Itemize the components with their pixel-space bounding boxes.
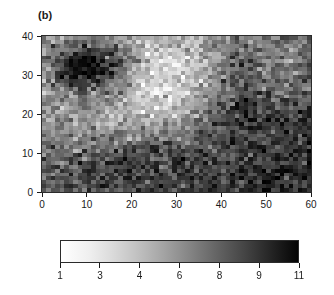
colorbar-tick (139, 263, 140, 268)
colorbar-tick-label: 9 (256, 270, 262, 281)
colorbar-tick-layer: 13468911 (0, 0, 334, 295)
colorbar-tick (299, 263, 300, 268)
colorbar-tick (99, 263, 100, 268)
colorbar-tick (259, 263, 260, 268)
colorbar-tick-label: 4 (137, 270, 143, 281)
colorbar-tick (219, 263, 220, 268)
colorbar-tick-label: 8 (217, 270, 223, 281)
colorbar-tick-label: 11 (294, 270, 304, 281)
colorbar-tick (179, 263, 180, 268)
figure-panel-b: (b) 0102030405060010203040 13468911 (0, 0, 334, 295)
colorbar-tick-label: 6 (177, 270, 183, 281)
colorbar-tick-label: 3 (97, 270, 103, 281)
colorbar-tick-label: 1 (57, 270, 63, 281)
colorbar-tick (60, 263, 61, 268)
